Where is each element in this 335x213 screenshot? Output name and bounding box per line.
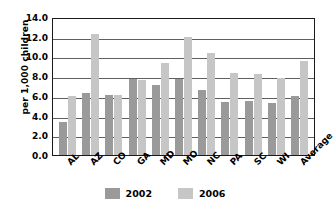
bar-group [126, 19, 149, 155]
bar-2006-NC [207, 53, 215, 156]
bar-group [56, 19, 79, 155]
legend-item[interactable]: 2002 [105, 188, 152, 199]
bar-2002-CO [105, 95, 113, 155]
legend-swatch-2002 [105, 188, 120, 199]
bar-group [242, 19, 265, 155]
bar-2002-AZ [82, 93, 90, 155]
bar-group [218, 19, 241, 155]
bar-2002-NC [198, 90, 206, 155]
y-tick-label: 6.0 [14, 92, 48, 101]
bar-2002-AL [59, 122, 67, 155]
bar-2006-WI [277, 78, 285, 155]
legend-label: 2002 [126, 188, 152, 199]
bar-2006-CO [114, 95, 122, 155]
bar-2006-MD [161, 63, 169, 155]
bar-2006-AZ [91, 34, 99, 155]
bar-2002-PA [221, 102, 229, 155]
y-tick-label: 0.0 [14, 152, 48, 161]
bar-2002-WI [268, 103, 276, 155]
y-tick-label: 14.0 [14, 14, 48, 23]
bar-group [195, 19, 218, 155]
legend-swatch-2006 [178, 188, 193, 199]
y-tick-label: 10.0 [14, 53, 48, 62]
bar-group [79, 19, 102, 155]
bar-2006-GA [138, 80, 146, 155]
bar-2006-Average [300, 61, 308, 155]
bar-2006-MO [184, 37, 192, 155]
bar-2006-SC [254, 74, 262, 155]
bar-2002-SC [245, 101, 253, 155]
bar-2002-MO [175, 79, 183, 155]
chart-legend: 20022006 [0, 188, 330, 199]
bar-groups [53, 19, 314, 155]
y-tick-label: 12.0 [14, 33, 48, 42]
y-tick-label: 4.0 [14, 112, 48, 121]
bar-group [288, 19, 311, 155]
y-tick-label: 2.0 [14, 132, 48, 141]
bar-2002-Average [291, 96, 299, 155]
bar-2002-GA [129, 79, 137, 155]
y-tick-label: 8.0 [14, 73, 48, 82]
legend-label: 2006 [199, 188, 225, 199]
bar-2006-AL [68, 96, 76, 155]
bar-2006-PA [230, 73, 238, 155]
bar-group [265, 19, 288, 155]
y-axis-tick-labels: 14.012.010.08.06.04.02.00.0 [14, 13, 48, 161]
plot-area [52, 18, 315, 156]
bar-group [172, 19, 195, 155]
bar-group [102, 19, 125, 155]
bar-2002-MD [152, 85, 160, 155]
bar-group [149, 19, 172, 155]
legend-item[interactable]: 2006 [178, 188, 225, 199]
